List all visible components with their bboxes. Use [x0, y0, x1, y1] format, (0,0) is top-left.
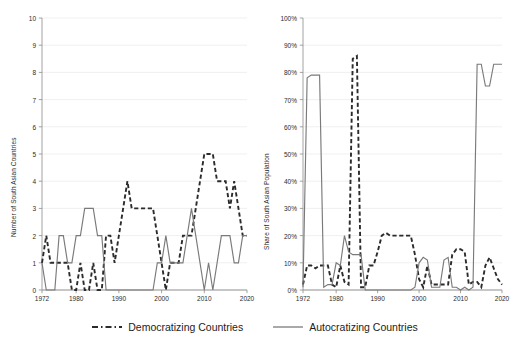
series-line-democratizing-countries — [303, 56, 502, 287]
legend-label-autocratizing: Autocratizing Countries — [309, 321, 418, 333]
x-tick-label: 2010 — [453, 295, 467, 302]
y-tick-label: 4 — [0, 178, 36, 185]
x-tick-label: 1972 — [35, 295, 49, 302]
series-line-autocratizing-countries — [42, 208, 247, 290]
x-tick-label: 2000 — [154, 295, 168, 302]
x-tick-label: 2020 — [240, 295, 254, 302]
x-tick-label: 2010 — [197, 295, 211, 302]
y-tick-label: 6 — [0, 123, 36, 130]
y-tick-label: 8 — [0, 69, 36, 76]
left-plot-area — [42, 18, 247, 290]
x-tick-label: 2000 — [412, 295, 426, 302]
legend-label-democratizing: Democratizing Countries — [128, 321, 243, 333]
y-tick-label: 50% — [255, 151, 297, 158]
y-tick-label: 10 — [0, 15, 36, 22]
x-tick-label: 1990 — [370, 295, 384, 302]
y-tick-label: 10% — [255, 259, 297, 266]
x-tick-label: 2020 — [495, 295, 509, 302]
legend-swatch-solid — [273, 322, 303, 332]
y-tick-label: 1 — [0, 259, 36, 266]
y-tick-label: 2 — [0, 232, 36, 239]
y-tick-label: 40% — [255, 178, 297, 185]
y-tick-label: 20% — [255, 232, 297, 239]
x-tick-label: 1980 — [69, 295, 83, 302]
panel-share-of-population: Share of South Asian Population 0%10%20%… — [255, 0, 510, 312]
y-tick-label: 9 — [0, 42, 36, 49]
y-tick-label: 7 — [0, 96, 36, 103]
legend: Democratizing Countries Autocratizing Co… — [0, 316, 510, 338]
right-plot-area — [303, 18, 502, 290]
y-tick-label: 0 — [0, 287, 36, 294]
y-tick-label: 70% — [255, 96, 297, 103]
x-tick-label: 1972 — [296, 295, 310, 302]
y-tick-label: 30% — [255, 205, 297, 212]
x-tick-label: 1990 — [112, 295, 126, 302]
y-tick-label: 3 — [0, 205, 36, 212]
y-tick-label: 100% — [255, 15, 297, 22]
y-tick-label: 90% — [255, 42, 297, 49]
figure-two-panel-chart: Number of South Asian Countries 01234567… — [0, 0, 510, 343]
y-tick-label: 60% — [255, 123, 297, 130]
right-plot-svg — [303, 18, 502, 290]
legend-item-autocratizing: Autocratizing Countries — [273, 321, 418, 333]
legend-item-democratizing: Democratizing Countries — [92, 321, 243, 333]
y-tick-label: 80% — [255, 69, 297, 76]
legend-swatch-dashed — [92, 322, 122, 332]
y-tick-label: 5 — [0, 151, 36, 158]
series-line-autocratizing-countries — [303, 64, 502, 290]
panel-number-of-countries: Number of South Asian Countries 01234567… — [0, 0, 255, 312]
y-tick-label: 0% — [255, 287, 297, 294]
x-tick-label: 1980 — [329, 295, 343, 302]
left-plot-svg — [42, 18, 247, 290]
